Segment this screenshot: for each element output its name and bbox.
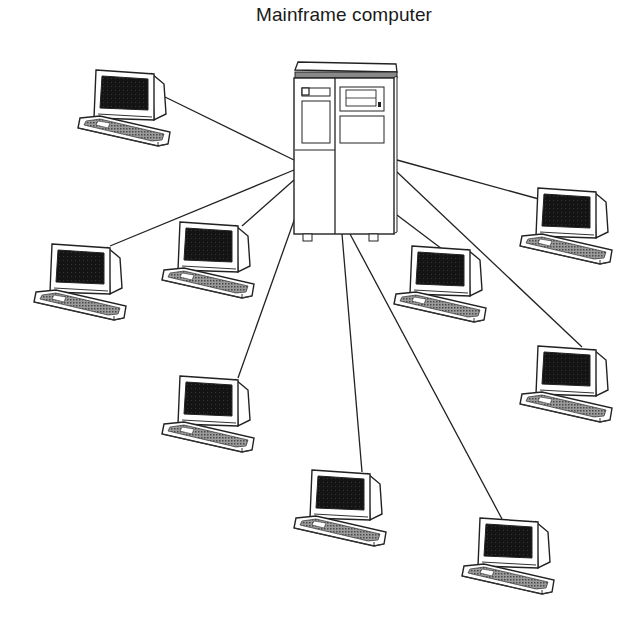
terminal-t5 (294, 470, 386, 546)
terminal-t2 (34, 244, 126, 320)
connection-line-t7 (397, 215, 442, 249)
terminal-t9 (520, 346, 612, 422)
terminal-t1 (78, 70, 170, 146)
network-diagram (0, 0, 641, 622)
connection-line-t8 (397, 160, 546, 201)
connection-line-t3 (242, 180, 294, 226)
connection-line-t1 (165, 97, 294, 160)
terminal-t8 (520, 188, 612, 264)
terminal-t7 (394, 246, 486, 322)
mainframe-icon (294, 62, 397, 241)
terminal-t4 (162, 376, 254, 452)
terminal-t6 (462, 518, 554, 594)
connection-line-t5 (342, 234, 362, 472)
terminal-t3 (162, 222, 254, 298)
